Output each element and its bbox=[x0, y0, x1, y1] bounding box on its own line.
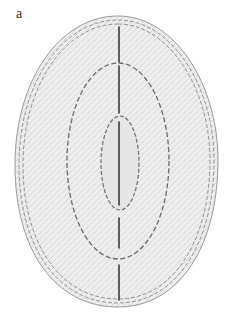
inner-ellipse bbox=[101, 116, 139, 210]
specimen-diagram bbox=[0, 0, 228, 314]
